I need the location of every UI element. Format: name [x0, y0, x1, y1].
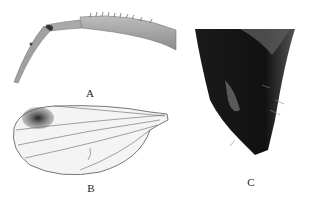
panel-b-wing: B: [0, 100, 180, 202]
panel-c-abdomen: C: [180, 0, 312, 202]
panel-label-b: B: [81, 182, 101, 194]
abdomen-illustration: [180, 0, 312, 202]
leg-illustration: [0, 0, 180, 100]
panel-label-a: A: [80, 87, 100, 99]
panel-label-c: C: [241, 176, 261, 188]
panel-a-leg: A: [0, 0, 180, 100]
